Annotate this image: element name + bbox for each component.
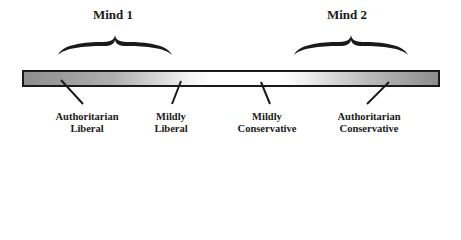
label-mildly-liberal: Mildly Liberal (116, 111, 226, 135)
label-mildly-conservative: Mildly Conservative (212, 111, 322, 135)
label-authoritarian-conservative: Authoritarian Conservative (314, 111, 424, 135)
